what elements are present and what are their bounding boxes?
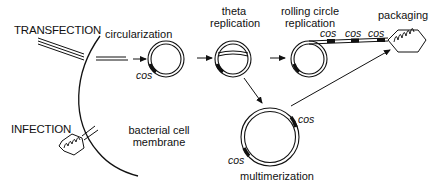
- linear-dna-icon: [96, 57, 128, 60]
- membrane-label-line2: membrane: [122, 136, 196, 148]
- packaging-label: packaging: [378, 9, 428, 21]
- membrane-label-line1: bacterial cell: [122, 124, 196, 136]
- multimer-dna-icon: [241, 108, 299, 166]
- arrow-to-multimerization: [244, 78, 262, 103]
- theta-replication-label: theta replication: [210, 5, 258, 29]
- arrow-multimer-to-packaging: [291, 50, 390, 106]
- rolling-label-line2: replication: [268, 17, 352, 29]
- cosmid-replication-diagram: TRANSFECTION INFECTION circularization c…: [0, 0, 436, 184]
- transfection-label: TRANSFECTION: [14, 24, 101, 36]
- cos-label-rolling-3: cos: [368, 27, 384, 39]
- phage-head-packaging-icon: [388, 28, 426, 52]
- infection-label: INFECTION: [11, 123, 71, 135]
- theta-label-line1: theta: [210, 5, 258, 17]
- cos-label-rolling-1: cos: [320, 27, 336, 39]
- rolling-circle-icon: [291, 38, 388, 77]
- rolling-label-line1: rolling circle: [268, 5, 352, 17]
- transfection-dna-icon: [38, 38, 84, 60]
- circular-dna-icon: [148, 41, 184, 77]
- theta-replication-icon: [215, 41, 251, 77]
- cos-label-multimer-2: cos: [228, 154, 244, 166]
- theta-label-line2: replication: [210, 17, 258, 29]
- cos-label-multimer-1: cos: [298, 113, 314, 125]
- membrane-label: bacterial cell membrane: [122, 124, 196, 148]
- rolling-circle-label: rolling circle replication: [268, 5, 352, 29]
- circularization-label: circularization: [105, 28, 172, 40]
- multimerization-label: multimerization: [240, 170, 314, 182]
- cos-label-rolling-2: cos: [345, 27, 361, 39]
- cos-label-circular: cos: [136, 69, 152, 81]
